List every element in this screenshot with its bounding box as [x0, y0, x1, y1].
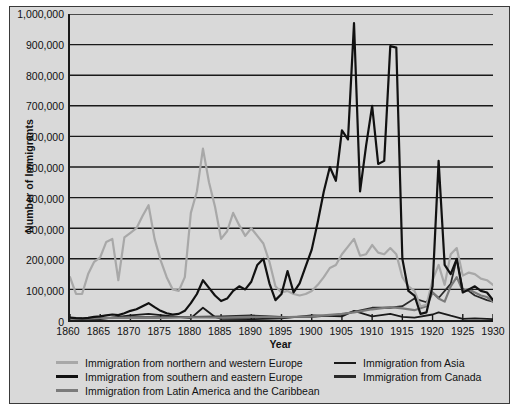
legend-item[interactable]: Immigration from Asia: [334, 356, 481, 369]
legend-item[interactable]: Immigration from Canada: [334, 370, 481, 383]
chart-figure: 0100,000200,000300,000400,000500,000600,…: [0, 0, 521, 413]
legend-swatch-line-icon: [334, 362, 356, 364]
legend-swatch-line-icon: [56, 375, 78, 378]
y-axis-title-wrapper: Number of Immigrants: [12, 20, 32, 320]
y-tick-label: 1,000,000: [4, 9, 64, 19]
legend-item[interactable]: Immigration from northern and western Eu…: [56, 356, 320, 369]
legend-swatch-line-icon: [56, 389, 78, 392]
series-line: [70, 149, 493, 307]
legend-item-label: Immigration from Asia: [363, 357, 465, 369]
legend-item-label: Immigration from Latin America and the C…: [85, 385, 320, 397]
plot-area: [68, 14, 493, 322]
legend-item-label: Immigration from southern and eastern Eu…: [85, 371, 303, 383]
x-axis-title: Year: [68, 338, 493, 350]
legend-item[interactable]: Immigration from Latin America and the C…: [56, 384, 320, 397]
legend-swatch-line-icon: [56, 361, 78, 364]
x-tick-label: 1930: [473, 325, 513, 337]
plot-svg: [70, 14, 493, 320]
legend-item[interactable]: Immigration from southern and eastern Eu…: [56, 370, 320, 383]
legend-item-label: Immigration from northern and western Eu…: [85, 357, 303, 369]
legend-item-label: Immigration from Canada: [363, 371, 481, 383]
chart-legend: Immigration from northern and western Eu…: [16, 356, 502, 398]
legend-swatch-line-icon: [334, 375, 356, 378]
legend-column-left: Immigration from northern and western Eu…: [56, 356, 320, 398]
series-line: [70, 23, 493, 318]
legend-column-right: Immigration from AsiaImmigration from Ca…: [334, 356, 481, 384]
y-axis-title: Number of Immigrants: [23, 91, 35, 261]
x-axis-tick-labels: 1860186518701875188018851890189519001905…: [68, 325, 493, 339]
